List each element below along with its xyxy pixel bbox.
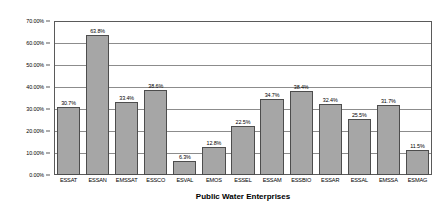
- bar[interactable]: [406, 150, 429, 175]
- bar[interactable]: [173, 161, 196, 175]
- bar-slot: 22.5%: [228, 21, 257, 175]
- y-tick-mark: [46, 65, 50, 66]
- bar-slot: 25.5%: [345, 21, 374, 175]
- x-tick-label: ESSAM: [258, 177, 287, 183]
- bar-slot: 38.6%: [141, 21, 170, 175]
- y-tick-label: 70.00%: [26, 18, 44, 24]
- y-tick-mark: [46, 43, 50, 44]
- bar-slot: 63.8%: [83, 21, 112, 175]
- y-tick-label: 0.00%: [29, 172, 44, 178]
- y-tick-mark: [46, 153, 50, 154]
- x-tick-label: ESMAG: [403, 177, 432, 183]
- bar[interactable]: [348, 119, 371, 175]
- bar-slot: 34.7%: [258, 21, 287, 175]
- bar-slot: 12.8%: [199, 21, 228, 175]
- x-tick-label: EMSSAT: [112, 177, 141, 183]
- bar-value-label: 12.8%: [199, 140, 228, 146]
- bar-slot: 38.4%: [287, 21, 316, 175]
- bar-slot: 32.4%: [316, 21, 345, 175]
- x-tick-label: ESSBIO: [287, 177, 316, 183]
- bar-slot: 31.7%: [374, 21, 403, 175]
- bar-value-label: 31.7%: [374, 98, 403, 104]
- bar-chart: 0.00%10.00%20.00%30.00%40.00%50.00%60.00…: [0, 0, 447, 220]
- x-tick-label: ESSAR: [316, 177, 345, 183]
- x-tick-label: EMOS: [199, 177, 228, 183]
- bar-slot: 6.3%: [170, 21, 199, 175]
- bar[interactable]: [260, 99, 283, 175]
- x-tick-label: ESSEL: [228, 177, 257, 183]
- y-tick-label: 10.00%: [26, 150, 44, 156]
- y-tick-mark: [46, 21, 50, 22]
- x-tick-label: ESVAL: [170, 177, 199, 183]
- bar-value-label: 22.5%: [228, 119, 257, 125]
- x-tick-label: EMSSA: [374, 177, 403, 183]
- bar[interactable]: [319, 104, 342, 175]
- bar-value-label: 6.3%: [170, 154, 199, 160]
- bar-value-label: 11.5%: [403, 143, 432, 149]
- y-tick-label: 30.00%: [26, 106, 44, 112]
- y-tick-label: 20.00%: [26, 128, 44, 134]
- bar-value-label: 38.6%: [141, 83, 170, 89]
- y-tick-mark: [46, 87, 50, 88]
- bar-value-label: 32.4%: [316, 97, 345, 103]
- y-tick-mark: [46, 131, 50, 132]
- bar[interactable]: [115, 102, 138, 175]
- bar-value-label: 38.4%: [287, 84, 316, 90]
- bar-slot: 30.7%: [54, 21, 83, 175]
- y-tick-label: 60.00%: [26, 40, 44, 46]
- bar-value-label: 33.4%: [112, 95, 141, 101]
- y-tick-label: 40.00%: [26, 84, 44, 90]
- x-tick-label: ESSAN: [83, 177, 112, 183]
- y-tick-mark: [46, 175, 50, 176]
- x-tick-label: ESSCO: [141, 177, 170, 183]
- x-tick-label: ESSAT: [54, 177, 83, 183]
- bar[interactable]: [86, 35, 109, 175]
- bar-value-label: 34.7%: [258, 92, 287, 98]
- bar-value-label: 63.8%: [83, 28, 112, 34]
- bar[interactable]: [231, 126, 254, 176]
- bar[interactable]: [57, 107, 80, 175]
- bar-value-label: 25.5%: [345, 112, 374, 118]
- y-tick-label: 50.00%: [26, 62, 44, 68]
- bar[interactable]: [290, 91, 313, 175]
- bar[interactable]: [144, 90, 167, 175]
- bar[interactable]: [202, 147, 225, 175]
- x-axis: ESSATESSANEMSSATESSCOESVALEMOSESSELESSAM…: [54, 177, 432, 189]
- x-axis-title: Public Water Enterprises: [54, 192, 432, 201]
- bar-slot: 11.5%: [403, 21, 432, 175]
- bar-value-label: 30.7%: [54, 100, 83, 106]
- y-tick-mark: [46, 109, 50, 110]
- bar[interactable]: [377, 105, 400, 175]
- y-axis: 0.00%10.00%20.00%30.00%40.00%50.00%60.00…: [0, 21, 50, 175]
- x-tick-label: ESSAL: [345, 177, 374, 183]
- bars-layer: 30.7%63.8%33.4%38.6%6.3%12.8%22.5%34.7%3…: [54, 21, 432, 175]
- bar-slot: 33.4%: [112, 21, 141, 175]
